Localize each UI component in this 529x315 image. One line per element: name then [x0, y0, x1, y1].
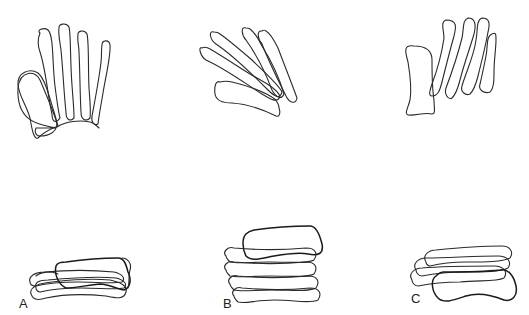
- panel-a-upper-view: [18, 24, 110, 138]
- panel-a-thumb-bone: [18, 73, 57, 136]
- panel-c-metacarpal-2: [430, 20, 456, 96]
- figure-canvas: [0, 0, 529, 315]
- panel-c-metacarpal-5: [480, 33, 496, 92]
- panel-c-thumb-bone: [406, 46, 435, 115]
- panel-a-stack-right-cap: [122, 258, 131, 288]
- panel-c-upper-view: [406, 18, 496, 115]
- panel-b-upper-view: [200, 28, 297, 116]
- panel-c-metacarpal-3: [445, 18, 475, 98]
- panel-a-label: A: [19, 297, 28, 310]
- panel-c-lower-view: [411, 246, 517, 301]
- panel-b-metacarpal-5: [258, 30, 297, 102]
- panel-a-metacarpal-3: [59, 24, 74, 120]
- panel-b-stack-bone-1: [225, 248, 316, 263]
- panel-c-stack-bone-3: [411, 266, 506, 286]
- panel-b-stack-bone-2: [225, 262, 316, 277]
- panel-a-metacarpal-5: [92, 41, 110, 125]
- panel-c-stack-bottom-bone: [432, 270, 516, 301]
- panel-a-lower-view: [30, 258, 131, 299]
- panel-b-stack-top-bone: [243, 226, 322, 259]
- panel-b-lower-view: [225, 226, 323, 303]
- panel-c-label: C: [411, 292, 420, 305]
- panel-a-metacarpal-4: [78, 31, 91, 120]
- panel-b-label: B: [223, 297, 232, 310]
- panel-a-metacarpal-2: [38, 29, 60, 122]
